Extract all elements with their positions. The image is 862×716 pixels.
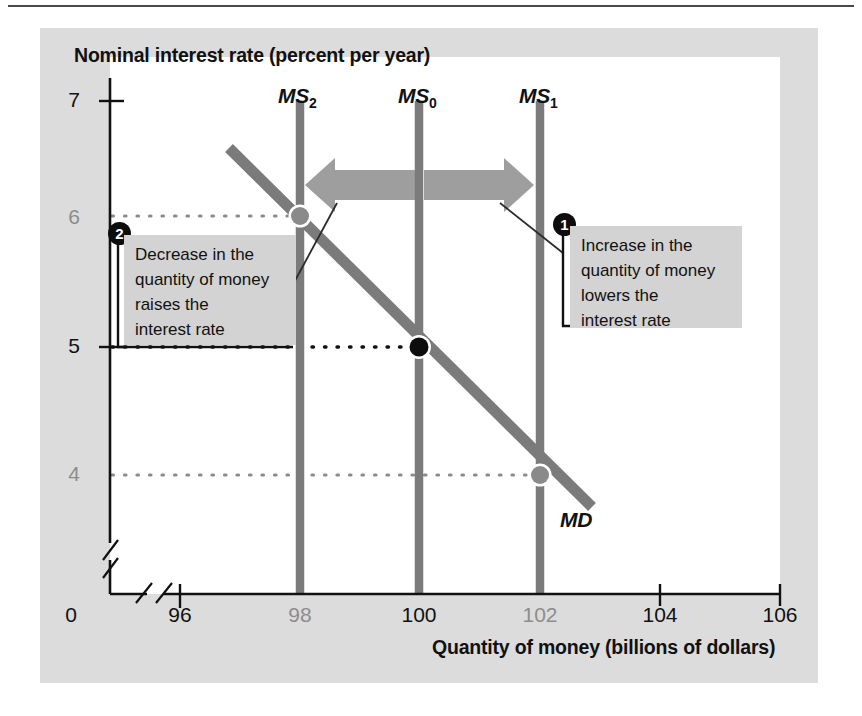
right-callout-box: Increase in the quantity of money lowers… (570, 226, 742, 328)
equilibrium-point-ms2 (289, 205, 312, 228)
md-label-base: MD (560, 508, 592, 531)
x-tick-label-96: 96 (155, 603, 205, 627)
ms1-label-base: MS (519, 84, 550, 107)
x-tick-label-106: 106 (750, 603, 810, 627)
x-axis-title: Quantity of money (billions of dollars) (432, 636, 775, 659)
increase-arrow (424, 158, 534, 212)
ms2-label-base: MS (278, 84, 309, 107)
ms2-label-sub: 2 (309, 95, 317, 111)
ms1-curve-label: MS1 (519, 84, 557, 111)
ms0-label-sub: 0 (429, 95, 437, 111)
equilibrium-point-ms0 (407, 335, 431, 359)
y-axis-title: Nominal interest rate (percent per year) (74, 44, 430, 67)
y-tick-label-6: 6 (62, 205, 86, 229)
y-tick-label-4: 4 (62, 462, 86, 486)
x-tick-label-0: 0 (56, 603, 86, 627)
x-tick-label-102: 102 (510, 603, 570, 627)
md-curve-label: MD (560, 508, 592, 532)
ms0-curve-label: MS0 (398, 84, 436, 111)
y-tick-label-7: 7 (62, 88, 86, 112)
ms1-label-sub: 1 (550, 95, 558, 111)
equilibrium-point-ms1 (529, 464, 552, 487)
left-callout-box: Decrease in the quantity of money raises… (124, 235, 296, 345)
x-tick-label-104: 104 (630, 603, 690, 627)
ms2-curve-label: MS2 (278, 84, 316, 111)
decrease-arrow (305, 158, 415, 212)
ms0-label-base: MS (398, 84, 429, 107)
x-tick-label-98: 98 (275, 603, 325, 627)
y-tick-label-5: 5 (62, 334, 86, 358)
x-tick-label-100: 100 (389, 603, 449, 627)
